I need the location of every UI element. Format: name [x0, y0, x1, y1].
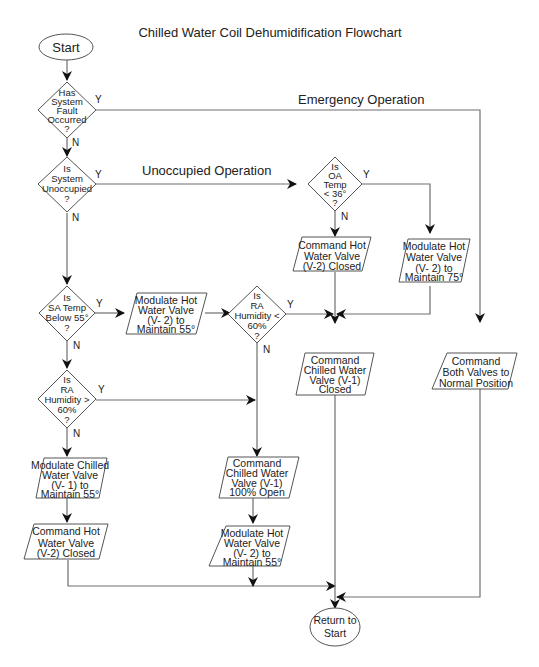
process-cw-open: Command Chilled Water Valve (V-1) 100% O… [219, 457, 299, 498]
chart-title: Chilled Water Coil Dehumidification Flow… [138, 25, 402, 40]
shape-text-line: Y [287, 299, 294, 310]
process-cw-maintain-55: Modulate Chilled Water Valve (V- 1) to M… [31, 458, 109, 500]
decision-oa-temp: Is OA Temp < 36° ? Y N [308, 157, 370, 222]
shape-text-line: Y [95, 169, 102, 180]
process-hw-maintain-55-sa: Modulate Hot Water Valve (V- 2) to Maint… [126, 293, 207, 335]
emergency-operation-label: Emergency Operation [298, 92, 424, 107]
shape-text-line: ? [64, 322, 69, 333]
shape-text-line: Command Hot [32, 525, 100, 537]
shape-text-line: N [73, 340, 80, 351]
shape-text-line: Y [98, 384, 105, 395]
shape-text-line: ? [64, 414, 69, 425]
shape-text-line: Maintain 55° [223, 556, 281, 568]
process-cw-closed: Command Chilled Water Valve (V-1) Closed [296, 353, 374, 395]
shape-text-line: Start [324, 627, 346, 639]
shape-text-line: (V-2) Closed [37, 547, 96, 559]
flowchart: Chilled Water Coil Dehumidification Flow… [0, 0, 539, 667]
decision-ra-humidity-greater: Is RA Humidity > 60% ? Y N [38, 370, 105, 439]
process-hw-closed: Command Hot Water Valve (V-2) Closed [24, 524, 108, 559]
shape-text-line: Y [363, 169, 370, 180]
decision-system-unoccupied: Is System Unoccupied ? Y N [38, 157, 102, 223]
process-both-valves-normal: Command Both Valves to Normal Position [432, 353, 517, 389]
return-terminal: Return to Start [310, 608, 360, 646]
no-label: N [72, 137, 79, 148]
shape-text-line: 100% Open [229, 486, 285, 498]
shape-text-line: Maintain 75° [405, 271, 463, 283]
yes-label: Y [95, 94, 102, 105]
process-hw-maintain-55: Modulate Hot Water Valve (V- 2) to Maint… [209, 526, 290, 568]
shape-text-line: Return to [313, 614, 356, 626]
shape-text-line: ? [64, 123, 69, 134]
shape-text-line: N [263, 344, 270, 355]
shape-text-line: Maintain 55° [41, 488, 99, 500]
shape-text-line: N [72, 212, 79, 223]
shape-text-line: Y [96, 298, 103, 309]
shape-text-line: (V-2) Closed [303, 260, 362, 272]
decision-ra-humidity-less: Is RA Humidity < 60% ? Y N [228, 286, 294, 355]
decision-system-fault: Has System Fault Occurred ? Y N [38, 82, 102, 148]
start-label: Start [52, 40, 80, 55]
process-hw-closed-unoccupied: Command Hot Water Valve (V-2) Closed [293, 237, 371, 272]
shape-text-line: Maintain 55° [137, 323, 195, 335]
process-hw-maintain-75: Modulate Hot Water Valve (V- 2) to Maint… [399, 239, 470, 283]
shape-text-line: ? [64, 193, 69, 204]
shape-text-line: Closed [319, 383, 352, 395]
shape-text-line: N [341, 211, 348, 222]
unoccupied-operation-label: Unoccupied Operation [142, 163, 271, 178]
start-terminal: Start [39, 34, 93, 60]
shape-text-line: ? [254, 330, 259, 341]
decision-sa-temp: Is SA Temp Below 55° ? Y N [39, 286, 103, 351]
shape-text-line: ? [332, 197, 337, 208]
shape-text-line: N [73, 428, 80, 439]
shape-text-line: Normal Position [439, 377, 513, 389]
